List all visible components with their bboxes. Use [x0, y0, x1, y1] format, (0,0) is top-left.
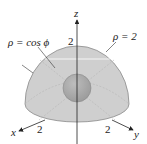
x-axis-label: x	[10, 126, 16, 138]
z-axis-tick: 2	[68, 35, 74, 47]
leader-line-edge	[22, 65, 33, 73]
y-axis-tick: 2	[105, 123, 111, 135]
y-axis	[112, 120, 133, 130]
y-axis-label: y	[133, 128, 139, 140]
inner-sphere-label: ρ = cos ϕ	[7, 36, 50, 48]
x-axis-tick: 2	[37, 123, 43, 135]
z-axis-label: z	[73, 7, 79, 19]
leader-line-outer	[106, 42, 116, 52]
outer-hemisphere-label: ρ = 2	[112, 30, 137, 42]
diagram-canvas: z 2 x 2 y 2 ρ = cos ϕ ρ = 2	[0, 0, 147, 144]
